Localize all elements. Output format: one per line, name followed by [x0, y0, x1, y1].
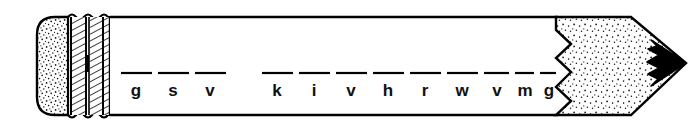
puzzle-letter: k — [272, 81, 282, 100]
puzzle-letter: m — [517, 81, 532, 100]
barrel — [110, 17, 558, 115]
barrel-face — [110, 17, 556, 115]
puzzle-letter: s — [168, 81, 177, 100]
puzzle-letter: i — [312, 81, 317, 100]
pencil-illustration: g s v k i v h r w v m g — [0, 0, 699, 127]
ferrule-hatch-band-2 — [90, 17, 103, 115]
puzzle-letter: v — [492, 81, 502, 100]
puzzle-letter: v — [205, 81, 215, 100]
eraser-stipple-fill — [36, 16, 70, 116]
puzzle-letter: w — [454, 81, 469, 100]
puzzle-letter: g — [131, 81, 141, 100]
ferrule-hatch-band-1 — [71, 17, 86, 115]
eraser — [36, 16, 70, 116]
ferrule — [68, 15, 110, 118]
puzzle-letter: v — [346, 81, 356, 100]
puzzle-letter: r — [422, 81, 429, 100]
puzzle-letter: h — [383, 81, 393, 100]
puzzle-letter: g — [544, 81, 554, 100]
pencil-puzzle-image: g s v k i v h r w v m g — [0, 0, 699, 127]
